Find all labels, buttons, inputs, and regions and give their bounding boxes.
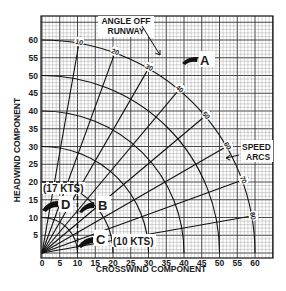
svg-text:5: 5 [33, 230, 38, 240]
svg-text:25: 25 [29, 159, 39, 169]
svg-text:60: 60 [250, 258, 260, 268]
grid [41, 16, 273, 258]
svg-text:50: 50 [29, 71, 39, 81]
svg-text:45: 45 [29, 88, 39, 98]
svg-text:30: 30 [29, 142, 39, 152]
marker-c: C [96, 232, 106, 247]
svg-text:80: 80 [249, 211, 257, 220]
svg-text:5: 5 [57, 258, 62, 268]
marker-a: A [200, 53, 210, 68]
speed-title-line1: SPEED [242, 142, 271, 152]
svg-text:10: 10 [73, 258, 83, 268]
kts10-label: (10 KTS) [113, 236, 154, 247]
svg-text:20: 20 [29, 177, 39, 187]
svg-text:60: 60 [29, 35, 39, 45]
svg-text:55: 55 [29, 53, 39, 63]
angle-title-line2: RUNWAY [108, 26, 145, 36]
svg-text:10: 10 [75, 38, 84, 46]
marker-b: B [98, 198, 107, 213]
svg-text:10: 10 [29, 213, 39, 223]
speed-title-line2: ARCS [246, 152, 270, 162]
svg-text:40: 40 [29, 106, 39, 116]
svg-text:55: 55 [233, 258, 243, 268]
crosswind-chart: 1020304050607080 05101520253035404550556… [0, 0, 286, 291]
angle-lines: 1020304050607080 [42, 36, 259, 253]
angle-title-line1: ANGLE OFF [101, 16, 150, 26]
y-axis-label: HEADWIND COMPONENT [12, 97, 22, 202]
svg-text:50: 50 [215, 258, 225, 268]
svg-text:15: 15 [29, 195, 39, 205]
marker-d: D [61, 197, 70, 212]
plot-frame [41, 16, 273, 258]
x-axis-label: CROSSWIND COMPONENT [96, 264, 207, 274]
svg-text:35: 35 [29, 124, 39, 134]
svg-text:0: 0 [40, 258, 45, 268]
